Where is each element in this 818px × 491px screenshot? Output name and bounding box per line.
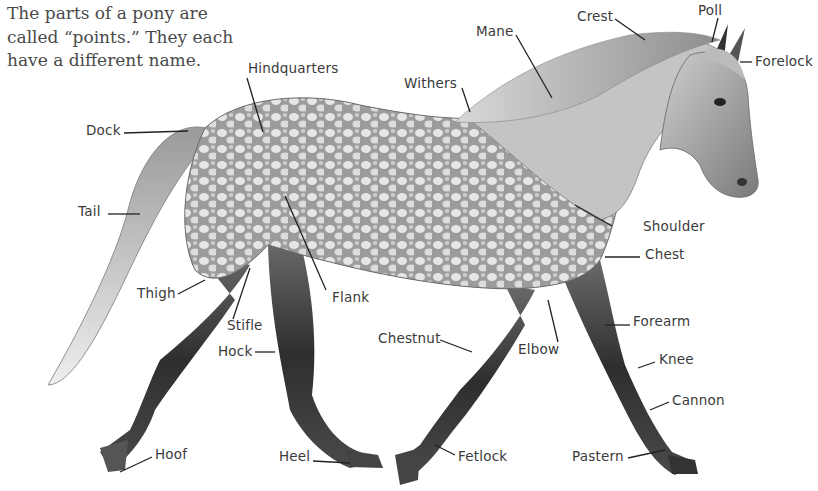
label-elbow: Elbow (518, 341, 559, 357)
front-leg-near (560, 260, 695, 475)
label-chest: Chest (645, 246, 685, 262)
label-stifle: Stifle (227, 317, 263, 333)
eye (714, 98, 726, 106)
hoof-hind-far (345, 450, 383, 468)
label-tail: Tail (78, 203, 101, 219)
label-hindquarters: Hindquarters (248, 60, 339, 76)
label-mane: Mane (476, 23, 514, 39)
label-poll: Poll (698, 2, 722, 18)
label-heel: Heel (279, 448, 310, 464)
label-chestnut: Chestnut (378, 330, 441, 346)
label-withers: Withers (404, 75, 457, 91)
label-shoulder: Shoulder (643, 218, 705, 234)
hoof-front-far (395, 448, 420, 485)
label-forearm: Forearm (633, 313, 690, 329)
hoof-front-near (668, 455, 698, 474)
label-flank: Flank (332, 289, 369, 305)
label-hock: Hock (218, 343, 252, 359)
pony-illustration (0, 0, 818, 491)
label-dock: Dock (86, 122, 121, 138)
label-cannon: Cannon (672, 392, 725, 408)
label-hoof: Hoof (155, 446, 187, 462)
nostril (737, 178, 747, 186)
hoof-hind-near (100, 440, 128, 472)
label-crest: Crest (577, 8, 613, 24)
label-thigh: Thigh (137, 285, 176, 301)
label-knee: Knee (659, 351, 694, 367)
label-forelock: Forelock (755, 53, 813, 69)
label-pastern: Pastern (572, 448, 624, 464)
hind-leg-far (268, 240, 378, 468)
label-fetlock: Fetlock (458, 448, 507, 464)
